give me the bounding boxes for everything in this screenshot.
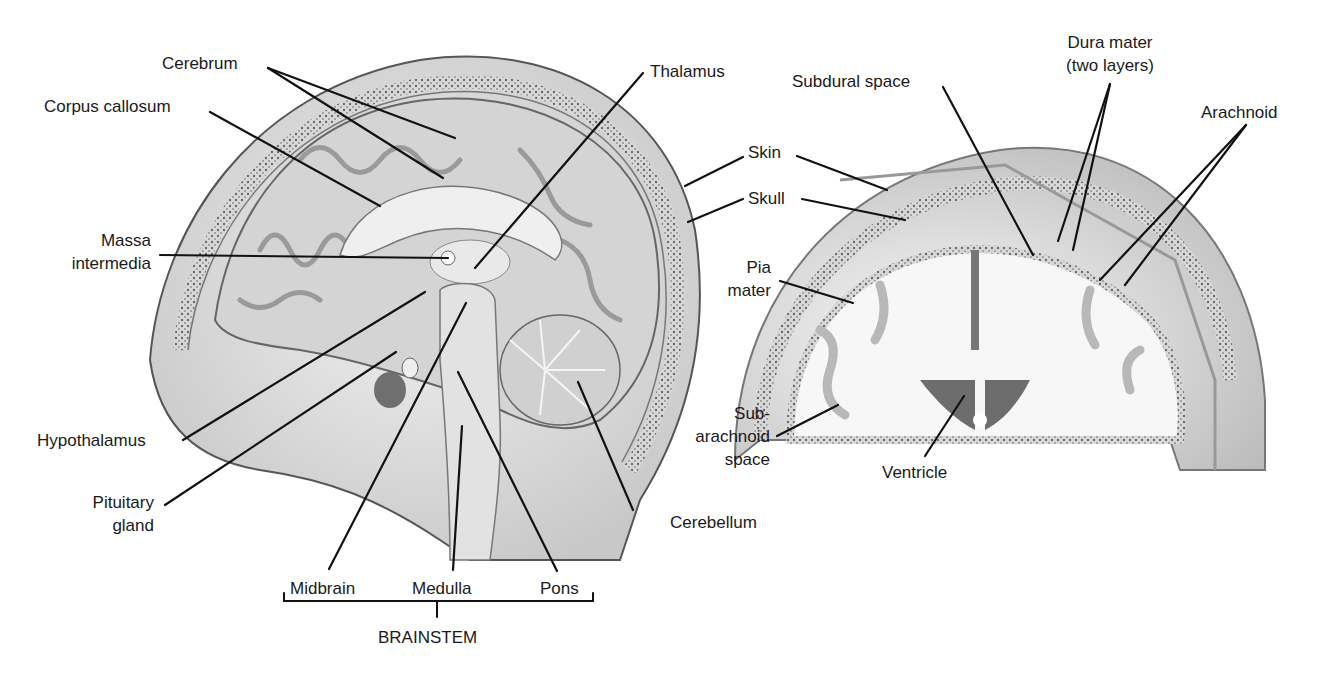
label-dura-mater-line1: Dura mater (1050, 32, 1170, 54)
label-midbrain: Midbrain (290, 578, 355, 600)
label-thalamus: Thalamus (650, 61, 725, 83)
label-subarachnoid-line3: space (680, 449, 770, 471)
brain-illustration (0, 0, 1321, 677)
label-pituitary-line1: Pituitary (60, 492, 154, 514)
label-cerebellum: Cerebellum (670, 512, 757, 534)
label-subdural-space: Subdural space (792, 71, 910, 93)
label-arachnoid: Arachnoid (1201, 102, 1278, 124)
coronal-section-drawing (735, 148, 1265, 470)
label-massa-intermedia-line1: Massa (40, 230, 151, 252)
label-skin: Skin (748, 142, 781, 164)
label-subarachnoid-line2: arachnoid (680, 426, 770, 448)
label-skull: Skull (748, 188, 785, 210)
label-hypothalamus: Hypothalamus (37, 430, 146, 452)
label-brainstem: BRAINSTEM (378, 627, 477, 649)
sagittal-head-drawing (150, 57, 700, 560)
label-pia-mater-line1: Pia (700, 257, 771, 279)
label-ventricle: Ventricle (882, 462, 947, 484)
label-massa-intermedia-line2: intermedia (40, 253, 151, 275)
label-pituitary-line2: gland (60, 515, 154, 537)
label-cerebrum: Cerebrum (162, 53, 238, 75)
label-corpus-callosum: Corpus callosum (44, 96, 171, 118)
label-subarachnoid-line1: Sub- (680, 403, 770, 425)
label-dura-mater-line2: (two layers) (1050, 55, 1170, 77)
label-medulla: Medulla (412, 578, 472, 600)
label-pons: Pons (540, 578, 579, 600)
label-pia-mater-line2: mater (700, 280, 771, 302)
